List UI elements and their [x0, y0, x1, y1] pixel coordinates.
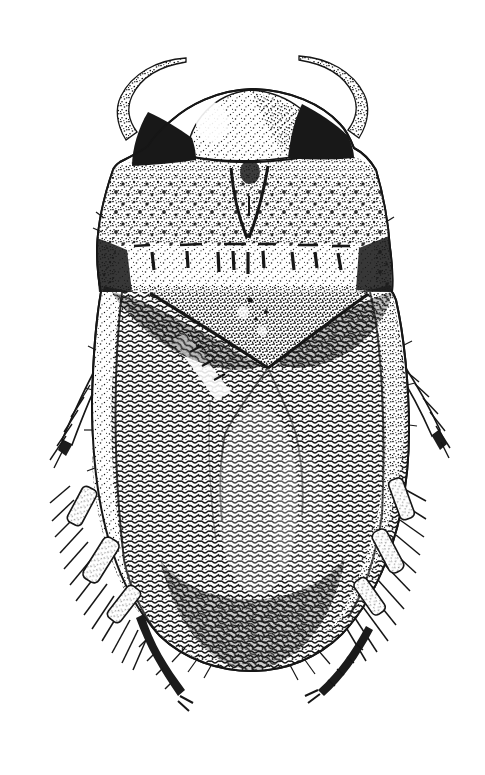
- pronotal-band: [114, 244, 376, 286]
- insect-illustration-svg: Ink stipple illustration of an aquatic b…: [0, 0, 485, 775]
- insect-illustration-figure: Ink stipple illustration of an aquatic b…: [0, 0, 485, 775]
- scutellum-pale-spot: [237, 306, 249, 318]
- scutellum-pale-spot: [257, 326, 267, 336]
- abdomen-highlight: [274, 450, 326, 590]
- head-highlight: [196, 102, 228, 142]
